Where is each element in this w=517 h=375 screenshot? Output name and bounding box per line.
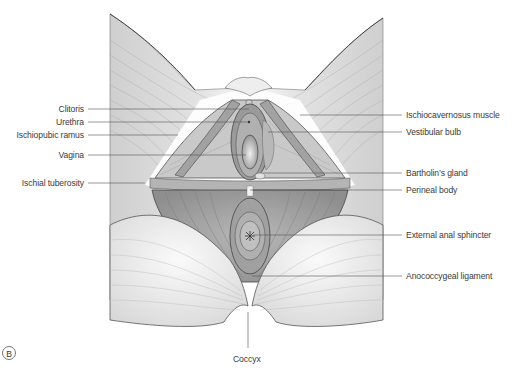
label-ischiocavernosus-muscle: Ischiocavernosus muscle: [406, 110, 500, 120]
label-clitoris: Clitoris: [59, 104, 84, 114]
panel-label-badge: B: [2, 346, 16, 360]
label-urethra: Urethra: [56, 117, 84, 127]
label-external-anal-sphincter: External anal sphincter: [406, 230, 491, 240]
anus-star-icon: [245, 231, 255, 241]
label-ischial-tuberosity: Ischial tuberosity: [22, 178, 84, 188]
label-ischiopubic-ramus: Ischiopubic ramus: [16, 130, 84, 140]
label-perineal-body: Perineal body: [406, 185, 457, 195]
label-anococcygeal-ligament: Anococcygeal ligament: [406, 271, 492, 281]
label-bartholins-gland: Bartholin’s gland: [406, 168, 468, 178]
label-vagina: Vagina: [58, 150, 84, 160]
label-vestibular-bulb: Vestibular bulb: [406, 127, 461, 137]
label-coccyx: Coccyx: [233, 354, 261, 364]
